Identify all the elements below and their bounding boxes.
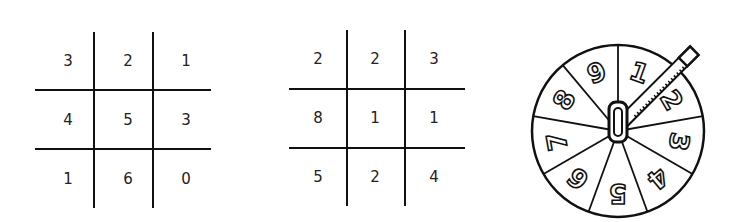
number-grid-1: 3 2 1 4 5 3 1 6 0 [35,32,211,208]
paperclip-icon [609,102,627,142]
grid-cell: 4 [405,148,463,206]
grid-cell: 5 [99,91,157,149]
grid-cell: 5 [289,148,347,206]
grid-cell: 2 [346,148,404,206]
grid-cell: 6 [99,150,157,208]
grid-cell: 2 [99,32,157,90]
grid-cell: 1 [157,32,215,90]
grid-cell: 2 [289,30,347,88]
grid-cell: 3 [39,32,97,90]
grid-cell: 0 [157,150,215,208]
number-spinner: 123456789 [520,25,740,222]
number-grid-2: 2 2 3 8 1 1 5 2 4 [289,30,465,206]
grid-cell: 1 [39,150,97,208]
grid-cell: 8 [289,89,347,147]
grid-cell: 2 [346,30,404,88]
grid-cell: 3 [405,30,463,88]
grid-cell: 1 [405,89,463,147]
grid-cell: 4 [39,91,97,149]
grid-cell: 1 [346,89,404,147]
spinner-section-label: 5 [609,178,627,208]
grid-cell: 3 [157,91,215,149]
